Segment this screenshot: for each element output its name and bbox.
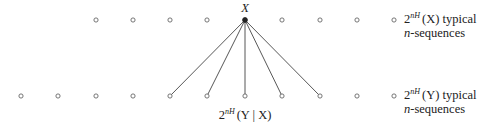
fan-line (245, 20, 282, 96)
sequence-point (355, 94, 359, 98)
x-sequences-label: n-sequences (404, 26, 465, 40)
x-label-suffix: typical (439, 12, 477, 26)
sequence-point (131, 94, 135, 98)
sequence-point (56, 94, 60, 98)
y-typical-label: 2nH(Y) typical (404, 87, 477, 102)
sequence-point (205, 18, 209, 22)
sequence-point (19, 94, 23, 98)
sequence-point (168, 94, 172, 98)
conditional-fan-lines (170, 20, 320, 96)
y-label-suffix: typical (439, 88, 477, 102)
sequence-point (168, 18, 172, 22)
sequence-point (355, 18, 359, 22)
sequence-point (205, 94, 209, 98)
y-label-exponent: nH (410, 87, 421, 96)
sequence-point (243, 94, 247, 98)
sequence-point (94, 94, 98, 98)
sequence-point (318, 94, 322, 98)
fan-line (245, 20, 320, 96)
sequence-point (280, 94, 284, 98)
x-label-arg: (X) (422, 12, 439, 26)
sequence-point (131, 18, 135, 22)
y-typical-sequence-points (19, 94, 396, 98)
x-typical-label: 2nH(X) typical (404, 11, 477, 26)
sequence-point (94, 18, 98, 22)
x-label-sequences: -sequences (410, 26, 465, 40)
sequence-point (318, 18, 322, 22)
y-label-arg: (Y) (422, 88, 439, 102)
x-label-exponent: nH (410, 11, 421, 20)
selected-sequence-point (243, 18, 248, 23)
sequence-point (392, 18, 396, 22)
fan-line (170, 20, 245, 96)
y-sequences-label: n-sequences (404, 102, 465, 116)
sequence-point (392, 94, 396, 98)
fan-line (207, 20, 245, 96)
typical-sequences-diagram: X 2nH(X) typical n-sequences 2nH(Y) typi… (0, 0, 483, 127)
fan-label-exponent: nH (225, 107, 236, 116)
conditional-count-label: 2nH(Y | X) (219, 107, 272, 122)
sequence-point (280, 18, 284, 22)
y-label-sequences: -sequences (410, 102, 465, 116)
x-typical-sequence-points (94, 18, 396, 23)
fan-label-arg: (Y | X) (237, 108, 272, 122)
x-node-label: X (240, 1, 250, 15)
